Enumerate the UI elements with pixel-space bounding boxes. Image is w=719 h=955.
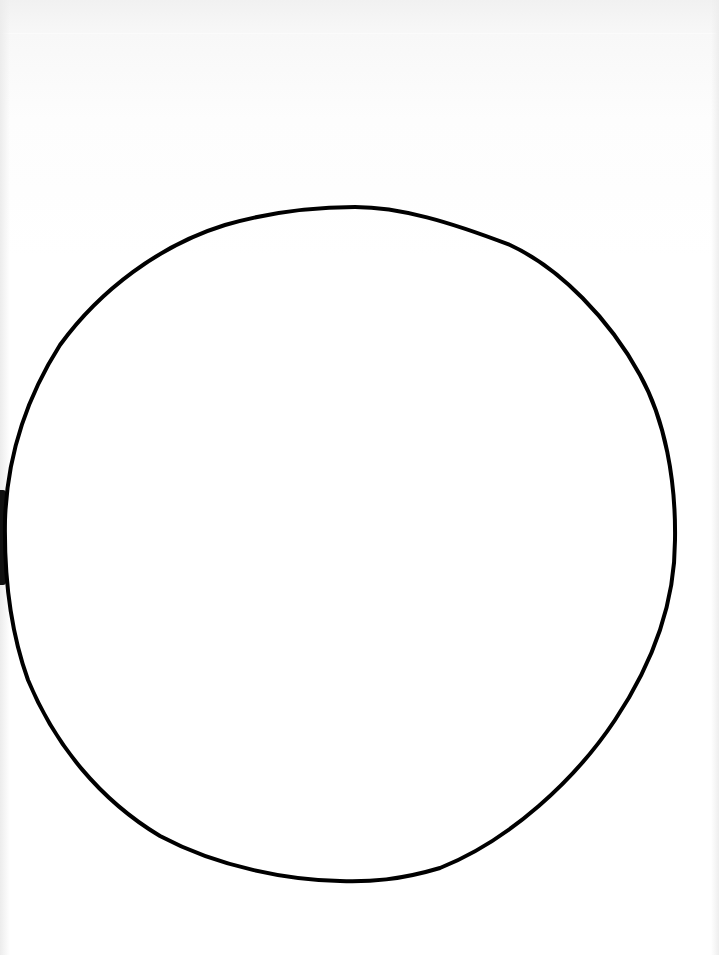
scanned-page	[0, 0, 719, 955]
circle-outline	[5, 207, 675, 881]
circle-drawing	[0, 0, 719, 955]
